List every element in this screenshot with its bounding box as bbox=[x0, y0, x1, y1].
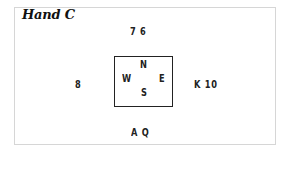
diagram-title: Hand C bbox=[22, 7, 75, 22]
compass-south-label: S bbox=[141, 86, 147, 99]
south-hand: A Q bbox=[131, 126, 150, 139]
east-hand: K 10 bbox=[194, 78, 218, 91]
compass-north-label: N bbox=[140, 58, 147, 71]
west-hand: 8 bbox=[75, 78, 81, 91]
compass-west-label: W bbox=[122, 72, 131, 85]
compass-box: N W E S bbox=[114, 56, 173, 107]
north-hand: 7 6 bbox=[130, 25, 147, 38]
compass-east-label: E bbox=[159, 72, 165, 85]
